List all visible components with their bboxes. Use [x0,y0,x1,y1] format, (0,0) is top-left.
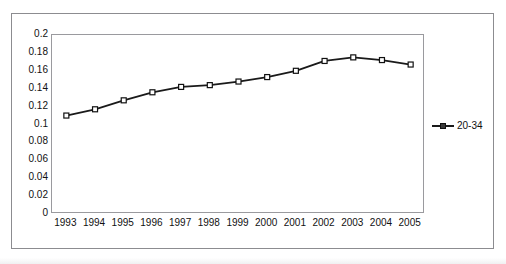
data-point-marker [293,68,298,73]
x-axis-tick-label: 2004 [370,217,392,229]
y-axis-tick-label: 0.14 [12,83,48,93]
data-point-marker [379,58,384,63]
x-axis-tick-label: 1999 [226,217,248,229]
x-axis-tick-label: 2005 [399,217,421,229]
x-axis-tick-label: 1997 [169,217,191,229]
y-axis-tick-label: 0.1 [12,119,48,129]
y-axis-tick-label: 0.18 [12,47,48,57]
y-axis-tick-label: 0.02 [12,190,48,200]
data-point-marker [150,90,155,95]
x-axis-tick-label: 1995 [112,217,134,229]
x-axis-tick-label: 1994 [83,217,105,229]
data-point-marker [351,55,356,60]
data-point-marker [236,79,241,84]
legend-entry-20-34: 20-34 [432,121,483,131]
chart-legend: 20-34 [432,117,483,135]
y-axis-tick-label: 0.04 [12,172,48,182]
y-axis-tick-label: 0.08 [12,136,48,146]
series-markers-20-34 [64,55,413,118]
y-axis-tick-label: 0.12 [12,101,48,111]
legend-marker-icon [432,121,454,131]
x-axis-tick-label: 2002 [312,217,334,229]
x-axis-tick-label: 1996 [140,217,162,229]
y-axis-tick-label: 0.2 [12,29,48,39]
data-point-marker [121,98,126,103]
line-series-svg [52,35,425,214]
legend-label: 20-34 [457,121,483,131]
data-point-marker [64,113,69,118]
data-point-marker [207,83,212,88]
data-point-marker [322,58,327,63]
data-point-marker [408,62,413,67]
x-axis-tick-label: 2000 [255,217,277,229]
x-axis-tick-label: 1993 [54,217,76,229]
chart-frame: 0.20.180.160.140.120.10.080.060.040.020 … [11,13,494,249]
cropped-header-sliver [0,0,506,7]
y-axis-tick-label: 0.16 [12,65,48,75]
y-axis-tick-label: 0 [12,208,48,218]
x-axis-tick-label: 2001 [284,217,306,229]
scan-edge-artifact [0,258,506,264]
y-axis: 0.20.180.160.140.120.10.080.060.040.020 [12,34,48,213]
data-point-marker [179,84,184,89]
series-line-20-34 [66,57,410,115]
plot-area [51,34,424,213]
x-axis-tick-label: 1998 [198,217,220,229]
x-axis-tick-label: 2003 [341,217,363,229]
data-point-marker [93,107,98,112]
x-axis: 1993199419951996199719981999200020012002… [51,217,424,233]
y-axis-tick-label: 0.06 [12,154,48,164]
data-point-marker [265,75,270,80]
